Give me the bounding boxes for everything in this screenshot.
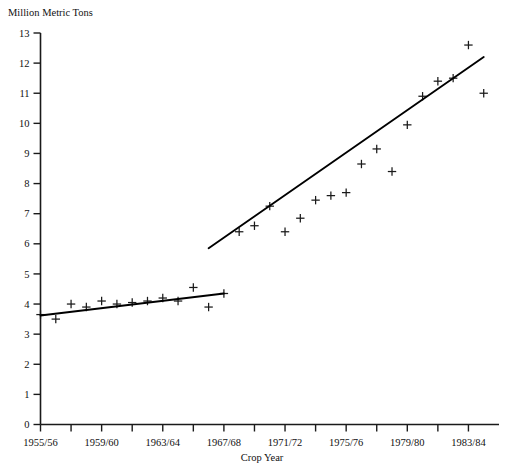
- y-tick-label: 11: [19, 88, 29, 99]
- y-tick-group: 012345678910111213: [19, 28, 41, 431]
- y-tick-label: 1: [24, 389, 29, 400]
- x-axis: 1955/561959/601963/641967/681971/721975/…: [23, 425, 499, 448]
- data-point: [250, 222, 258, 230]
- x-tick-label: 1971/72: [268, 437, 302, 448]
- x-tick-label: 1975/76: [329, 437, 363, 448]
- x-tick-label: 1983/84: [451, 437, 486, 448]
- y-tick-label: 6: [24, 238, 29, 249]
- y-axis: 012345678910111213: [19, 28, 41, 431]
- data-point: [403, 121, 411, 129]
- data-point: [373, 145, 381, 153]
- y-tick-label: 9: [24, 148, 29, 159]
- y-tick-label: 8: [24, 178, 29, 189]
- data-point: [342, 188, 350, 196]
- y-tick-label: 13: [19, 28, 30, 39]
- data-point: [281, 228, 289, 236]
- y-tick-label: 4: [24, 299, 30, 310]
- data-point: [311, 196, 319, 204]
- y-tick-label: 10: [19, 118, 30, 129]
- y-tick-label: 7: [24, 208, 29, 219]
- data-point: [204, 303, 212, 311]
- data-point: [357, 160, 365, 168]
- data-point: [434, 77, 442, 85]
- y-axis-title: Million Metric Tons: [8, 7, 93, 18]
- y-tick-label: 3: [24, 329, 29, 340]
- y-tick-label: 5: [24, 269, 29, 280]
- y-tick-label: 2: [24, 359, 29, 370]
- data-point: [327, 191, 335, 199]
- x-tick-label: 1979/80: [390, 437, 424, 448]
- y-tick-label: 0: [24, 419, 29, 430]
- y-tick-label: 12: [19, 58, 30, 69]
- data-point: [52, 315, 60, 323]
- trend-segment-late: [209, 57, 484, 248]
- x-axis-title: Crop Year: [241, 452, 284, 463]
- data-point: [189, 283, 197, 291]
- x-tick-group: 1955/561959/601963/641967/681971/721975/…: [23, 425, 486, 448]
- x-tick-label: 1959/60: [84, 437, 118, 448]
- data-point: [97, 297, 105, 305]
- data-point: [296, 214, 304, 222]
- data-point: [67, 300, 75, 308]
- trend-line-group: [41, 57, 484, 315]
- data-point: [464, 41, 472, 49]
- x-tick-label: 1967/68: [207, 437, 241, 448]
- x-tick-label: 1963/64: [146, 437, 181, 448]
- x-tick-label: 1955/56: [23, 437, 57, 448]
- production-scatter-chart: Million Metric Tons 012345678910111213 1…: [0, 0, 506, 469]
- data-point: [480, 89, 488, 97]
- chart-container: Million Metric Tons 012345678910111213 1…: [0, 0, 506, 469]
- data-point-group: [36, 41, 488, 323]
- data-point: [388, 167, 396, 175]
